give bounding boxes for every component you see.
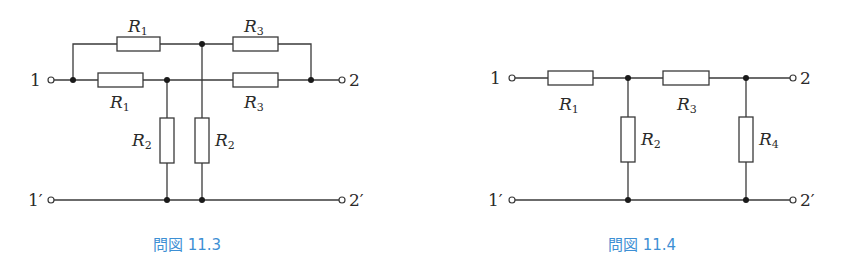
resistor-r2-right [195, 118, 209, 163]
label-r3-mid: R3 [243, 92, 264, 114]
junction-node [743, 197, 749, 203]
terminal-label-1: 1 [490, 68, 501, 88]
resistor-r1 [548, 71, 593, 85]
terminal-2 [339, 77, 345, 83]
label-r2-left: R2 [131, 130, 152, 152]
terminal-1-prime [48, 197, 54, 203]
terminal-2 [790, 75, 796, 81]
label-r1: R1 [558, 94, 579, 116]
terminal-label-2-prime: 2′ [800, 190, 815, 210]
figure-11-3: 1 2 1′ 2′ R1 R3 R1 R3 R2 R2 問図 11.3 [28, 16, 364, 254]
label-r2: R2 [640, 129, 661, 151]
junction-node [164, 77, 170, 83]
junction-node [308, 77, 314, 83]
circuit-figures: 1 2 1′ 2′ R1 R3 R1 R3 R2 R2 問図 11.3 [0, 0, 846, 279]
label-r1-top: R1 [127, 16, 148, 38]
label-r3-top: R3 [243, 16, 264, 38]
terminal-label-1-prime: 1′ [28, 190, 43, 210]
terminal-label-1: 1 [30, 70, 41, 90]
terminal-1-prime [509, 197, 515, 203]
terminal-label-2: 2 [800, 68, 811, 88]
label-r3: R3 [676, 94, 697, 116]
junction-node [199, 41, 205, 47]
resistor-r3 [663, 71, 709, 85]
resistor-r2-left [160, 118, 174, 163]
terminal-label-2: 2 [349, 70, 360, 90]
terminal-2-prime [790, 197, 796, 203]
resistor-r3-mid [233, 73, 278, 87]
label-r4: R4 [758, 129, 779, 151]
resistor-r3-top [233, 37, 278, 51]
junction-node [70, 77, 76, 83]
terminal-label-1-prime: 1′ [488, 190, 503, 210]
terminal-1 [509, 75, 515, 81]
junction-node [743, 75, 749, 81]
figure-11-4: 1 2 1′ 2′ R1 R3 R2 R4 問図 11.4 [488, 68, 815, 254]
label-r2-right: R2 [214, 130, 235, 152]
junction-node [625, 197, 631, 203]
junction-node [164, 197, 170, 203]
figure-caption: 問図 11.3 [153, 236, 221, 254]
resistor-r1-mid [98, 73, 143, 87]
terminal-2-prime [339, 197, 345, 203]
resistor-r4 [739, 117, 753, 162]
terminal-1 [48, 77, 54, 83]
resistor-r1-top [117, 37, 160, 51]
terminal-label-2-prime: 2′ [349, 190, 364, 210]
resistor-r2 [621, 117, 635, 162]
label-r1-mid: R1 [109, 92, 130, 114]
junction-node [199, 197, 205, 203]
figure-caption: 問図 11.4 [608, 236, 676, 254]
junction-node [625, 75, 631, 81]
